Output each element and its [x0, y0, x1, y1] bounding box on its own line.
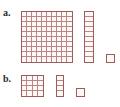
block-cell — [38, 91, 43, 96]
figure-canvas: a. b. — [0, 0, 120, 107]
short-rod-b — [56, 75, 64, 97]
ones-unit-b — [76, 88, 85, 97]
row-label-b: b. — [3, 74, 11, 84]
block-cell — [85, 57, 93, 62]
row-label-a: a. — [3, 8, 11, 18]
block-cell — [67, 57, 72, 62]
hundreds-flat-a — [21, 11, 73, 63]
square-flat-b — [21, 75, 44, 97]
tens-rod-a — [84, 11, 94, 63]
ones-unit-a — [106, 54, 115, 63]
block-cell — [57, 91, 63, 96]
block-cell — [77, 89, 84, 96]
block-cell — [107, 55, 114, 62]
